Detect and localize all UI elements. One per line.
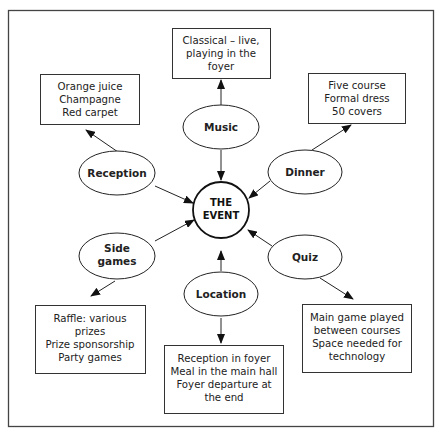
side-games-detail-line: Raffle: various bbox=[53, 313, 126, 324]
center-node: THE EVENT bbox=[193, 182, 249, 238]
quiz-detail-line: technology bbox=[329, 351, 386, 362]
quiz-detail-line: Space needed for bbox=[312, 338, 403, 349]
arrow-dinner-to-details bbox=[312, 125, 351, 150]
location-detail-line: the end bbox=[204, 392, 243, 403]
location-detail-line: Foyer departure at bbox=[176, 379, 271, 390]
location-detail-line: Reception in foyer bbox=[178, 353, 272, 364]
side-games-detail-line: Prize sponsorship bbox=[45, 339, 134, 350]
quiz-detail-line: Main game played bbox=[310, 312, 404, 323]
reception-label: Reception bbox=[87, 167, 146, 179]
reception-detail-line: Red carpet bbox=[62, 107, 117, 118]
dinner-detail-line: 50 covers bbox=[332, 106, 382, 117]
center-label-line: THE bbox=[210, 197, 232, 208]
quiz-details-box: Main game played between courses Space n… bbox=[303, 305, 412, 373]
quiz-detail-line: between courses bbox=[314, 325, 401, 336]
arrow-dinner-to-center bbox=[249, 181, 270, 198]
dinner-node: Dinner bbox=[268, 150, 342, 194]
side-games-detail-line: Party games bbox=[58, 352, 122, 363]
quiz-node: Quiz bbox=[268, 235, 342, 279]
location-detail-line: Meal in the main hall bbox=[171, 366, 278, 377]
music-detail-line: playing in the bbox=[186, 48, 256, 59]
arrow-quiz-to-details bbox=[320, 278, 353, 299]
side-games-label-line: Side bbox=[104, 242, 130, 254]
arrow-reception-to-center bbox=[155, 186, 193, 203]
dinner-detail-line: Five course bbox=[328, 80, 386, 91]
music-details-box: Classical – live, playing in the foyer bbox=[173, 29, 271, 79]
center-label-line: EVENT bbox=[203, 210, 240, 221]
side-games-detail-line: prizes bbox=[75, 326, 105, 337]
side-games-label-line: games bbox=[98, 255, 137, 267]
side-games-node: Side games bbox=[79, 233, 155, 279]
music-node: Music bbox=[183, 105, 259, 149]
reception-details-box: Orange juice Champagne Red carpet bbox=[41, 75, 140, 125]
location-details-box: Reception in foyer Meal in the main hall… bbox=[165, 346, 284, 414]
dinner-detail-line: Formal dress bbox=[324, 93, 389, 104]
arrow-reception-to-details bbox=[86, 130, 118, 152]
music-label: Music bbox=[204, 121, 238, 133]
location-label: Location bbox=[196, 288, 247, 300]
event-mind-map: Classical – live, playing in the foyer O… bbox=[0, 0, 445, 439]
quiz-label: Quiz bbox=[292, 251, 318, 263]
arrow-side-games-to-center bbox=[155, 220, 194, 241]
side-games-details-box: Raffle: various prizes Prize sponsorship… bbox=[36, 306, 146, 374]
reception-detail-line: Orange juice bbox=[58, 81, 123, 92]
music-detail-line: foyer bbox=[208, 61, 235, 72]
reception-detail-line: Champagne bbox=[59, 94, 121, 105]
arrow-quiz-to-center bbox=[248, 230, 272, 246]
arrow-side-games-to-details bbox=[91, 281, 115, 296]
location-node: Location bbox=[184, 272, 258, 316]
dinner-label: Dinner bbox=[285, 166, 325, 178]
reception-node: Reception bbox=[79, 151, 155, 195]
dinner-details-box: Five course Formal dress 50 covers bbox=[309, 74, 406, 124]
music-detail-line: Classical – live, bbox=[182, 35, 259, 46]
